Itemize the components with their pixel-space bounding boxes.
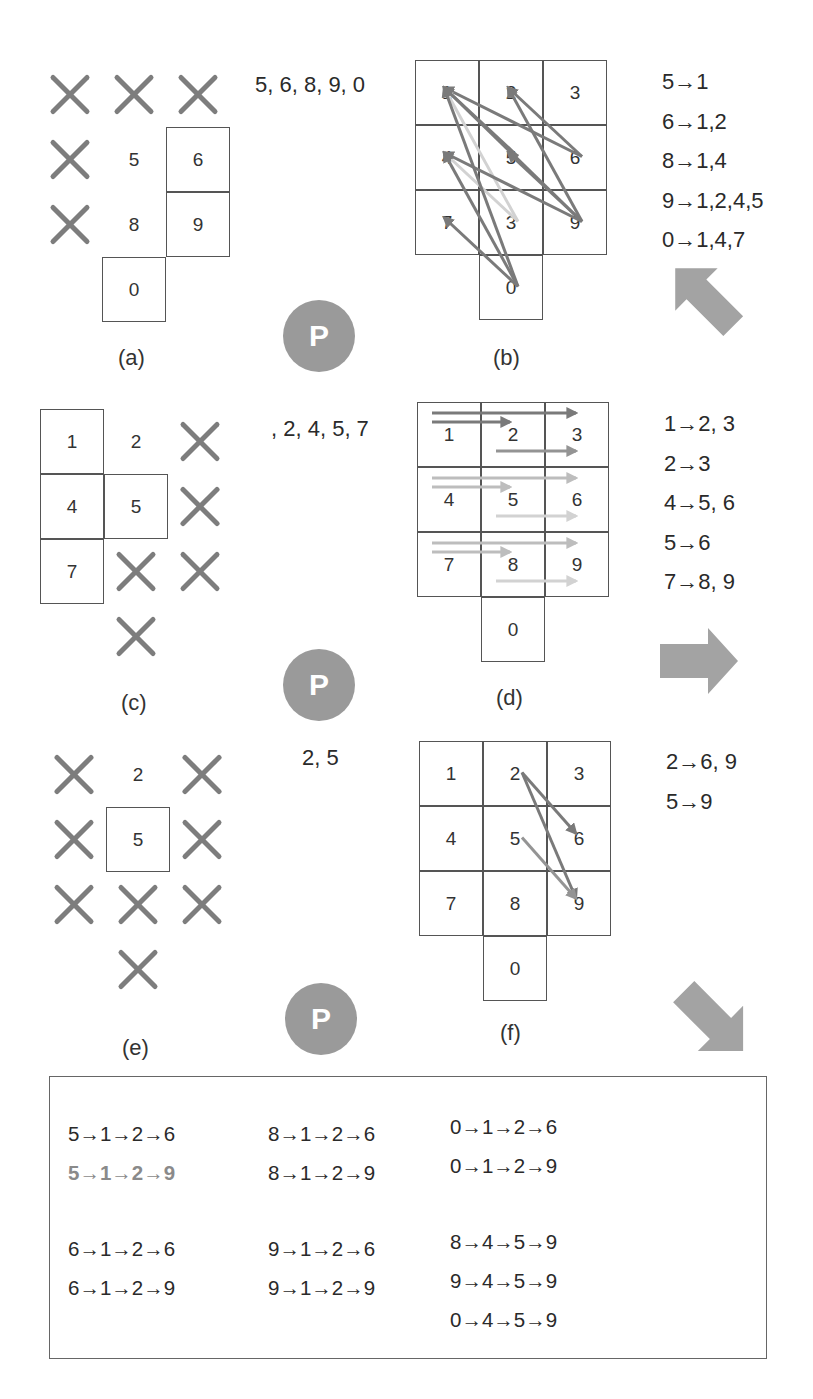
cross-icon	[117, 78, 151, 112]
cross-icon	[181, 78, 215, 112]
edge-arrow-f-2-to-6	[522, 773, 576, 834]
cross-icon	[183, 490, 217, 524]
cross-icon	[119, 620, 153, 654]
cross-icon	[185, 823, 219, 857]
cross-icon	[57, 888, 91, 922]
cross-icon	[185, 758, 219, 792]
transition-arrow-right	[660, 628, 738, 694]
cross-icon	[53, 143, 87, 177]
cross-icon	[183, 425, 217, 459]
edge-arrow-b-0-to-7	[444, 218, 518, 287]
edge-arrow-f-2-to-9	[522, 773, 576, 899]
cross-icon	[53, 78, 87, 112]
cross-icon	[53, 208, 87, 242]
transition-arrow-up-left	[654, 247, 754, 347]
transition-arrow-down-right	[661, 969, 766, 1074]
edge-arrow-b-9-to-5	[508, 153, 582, 222]
cross-icon	[183, 555, 217, 589]
cross-icon	[121, 888, 155, 922]
cross-icon	[57, 823, 91, 857]
edge-arrow-b-6-to-2	[508, 88, 582, 157]
diagram-overlay	[0, 0, 813, 1399]
cross-icon	[119, 555, 153, 589]
cross-icon	[185, 888, 219, 922]
cropped-caption	[0, 1385, 813, 1399]
cross-icon	[57, 758, 91, 792]
cross-icon	[121, 953, 155, 987]
edge-arrow-f-5-to-9	[522, 838, 576, 899]
